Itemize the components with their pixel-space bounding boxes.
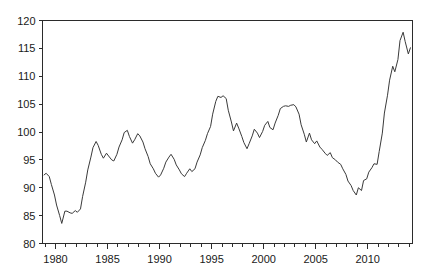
x-tick-label: 2005 [303,253,327,265]
y-tick-label: 120 [17,15,35,27]
y-tick-label: 110 [18,70,36,82]
x-tick-label: 1995 [199,253,223,265]
y-tick-label: 90 [23,182,35,194]
y-tick-label: 105 [17,98,35,110]
y-tick-label: 80 [23,238,35,250]
x-tick-label: 2010 [356,253,380,265]
x-tick-label: 1980 [43,253,67,265]
chart-container: 80859095100105110115120 1980198519901995… [0,0,424,279]
y-tick-label: 85 [23,210,35,222]
y-tick-label: 95 [23,154,35,166]
line-chart: 80859095100105110115120 1980198519901995… [0,0,424,279]
chart-background [0,0,424,279]
y-tick-label: 115 [18,42,36,54]
x-tick-label: 1990 [147,253,171,265]
x-tick-label: 1985 [95,253,119,265]
y-tick-label: 100 [17,126,35,138]
x-tick-label: 2000 [251,253,275,265]
